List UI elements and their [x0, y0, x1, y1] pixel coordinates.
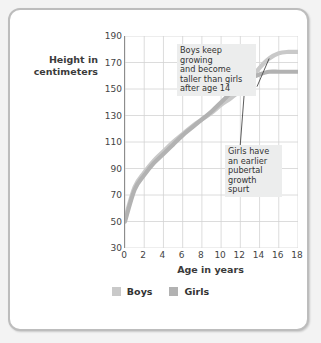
x-axis-tick-labels: 024681012141618 — [124, 250, 297, 264]
figure-canvas: Height in centimeters 305070901101301501… — [0, 0, 321, 343]
chart-card: Height in centimeters 305070901101301501… — [8, 8, 309, 331]
legend-item-boys[interactable]: Boys — [112, 286, 153, 297]
y-axis-tick-labels: 30507090110130150170190 — [103, 36, 122, 244]
y-tick-label: 30 — [103, 243, 122, 253]
plot-area-wrapper: 30507090110130150170190 Boys keep growin… — [103, 36, 297, 281]
x-tick-label: 12 — [234, 250, 245, 260]
x-tick-label: 16 — [272, 250, 283, 260]
annotation-line: after age 14 — [180, 84, 253, 94]
x-axis-title: Age in years — [124, 264, 297, 275]
legend-label: Boys — [127, 286, 153, 297]
x-tick-label: 8 — [198, 250, 204, 260]
x-tick-label: 4 — [160, 250, 166, 260]
y-tick-label: 70 — [103, 190, 122, 200]
y-axis-title-line-1: Height in — [20, 54, 98, 66]
x-tick-label: 0 — [121, 250, 127, 260]
y-axis-title-line-2: centimeters — [20, 66, 98, 78]
legend-swatch-girls — [169, 287, 178, 296]
y-tick-label: 190 — [103, 31, 122, 41]
annotation-line: growth spurt — [228, 176, 279, 195]
x-tick-label: 18 — [291, 250, 302, 260]
y-tick-label: 150 — [103, 84, 122, 94]
x-tick-label: 6 — [179, 250, 185, 260]
chart-legend: BoysGirls — [10, 286, 311, 297]
legend-label: Girls — [184, 286, 209, 297]
x-tick-label: 14 — [253, 250, 264, 260]
plot-area: Boys keep growingand becometaller than g… — [124, 36, 297, 248]
x-tick-label: 2 — [140, 250, 146, 260]
annotation-girls-note: Girls havean earlierpubertalgrowth spurt — [225, 145, 282, 197]
legend-item-girls[interactable]: Girls — [169, 286, 209, 297]
annotation-line: Boys keep growing — [180, 46, 253, 65]
y-tick-label: 110 — [103, 137, 122, 147]
y-tick-label: 170 — [103, 58, 122, 68]
x-tick-label: 10 — [214, 250, 225, 260]
annotation-boys-note: Boys keep growingand becometaller than g… — [177, 44, 256, 96]
legend-swatch-boys — [112, 287, 121, 296]
y-tick-label: 50 — [103, 217, 122, 227]
y-tick-label: 90 — [103, 164, 122, 174]
y-axis-title: Height in centimeters — [20, 54, 98, 77]
y-tick-label: 130 — [103, 111, 122, 121]
